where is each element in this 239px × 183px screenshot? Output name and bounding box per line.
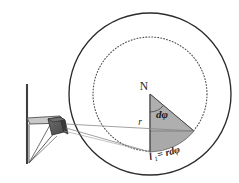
angle-label-dphi: dφ — [156, 108, 169, 120]
optics-diagram-figure: N r dφ l 1 = rdφ — [0, 0, 239, 183]
diagram-canvas: N r dφ l 1 = rdφ — [0, 0, 239, 183]
radius-label-r: r — [138, 117, 142, 127]
apex-label-N: N — [140, 80, 149, 92]
